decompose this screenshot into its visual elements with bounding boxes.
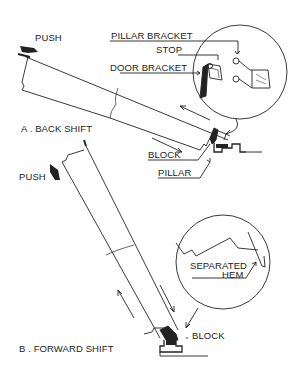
separated-hem-label-line2: HEM [222,270,243,280]
section-a-title: A . BACK SHIFT [21,124,92,134]
door-shift-diagram [0,0,294,374]
push-arrow-icon-a [20,46,38,53]
push-label-b: PUSH [19,172,46,182]
section-b-title: B . FORWARD SHIFT [19,344,114,354]
pillar-bracket-label: PILLAR BRACKET [111,31,193,41]
block-label-a: BLOCK [148,150,181,160]
stop-label: STOP [156,45,182,55]
door-bracket-label: DOOR BRACKET [110,63,187,73]
push-arrow-icon-b [50,164,60,180]
push-label-a: PUSH [35,33,62,43]
block-label-b: BLOCK [192,331,225,341]
pillar-label: PILLAR [158,168,191,178]
